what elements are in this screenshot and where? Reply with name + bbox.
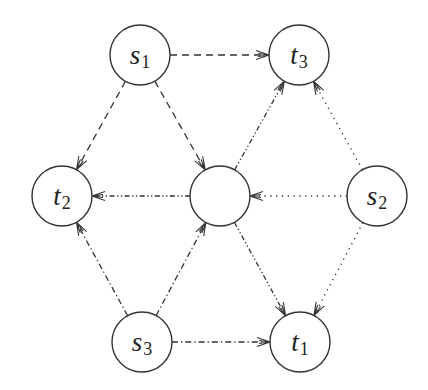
node-t1 <box>270 312 330 372</box>
edge-s1-to-m <box>155 81 204 168</box>
edge-s2-to-t3 <box>314 83 362 170</box>
arrowhead-icon <box>274 81 284 95</box>
node-s2 <box>347 166 407 226</box>
node-t2 <box>32 166 92 226</box>
arrowhead-icon <box>76 222 86 236</box>
node-t3 <box>269 25 329 85</box>
node-s1 <box>110 25 170 85</box>
arrowhead-icon <box>250 192 263 201</box>
node-m <box>190 166 250 226</box>
edge-s2-to-t1 <box>315 223 363 314</box>
arrowhead-icon <box>77 156 87 170</box>
edge-s3-to-m <box>156 224 205 315</box>
flow-diagram: s1 t3 t2 s2 s3 t1 <box>0 0 428 390</box>
arrowhead-icon <box>275 302 285 316</box>
edge-s3-to-t2 <box>77 224 127 316</box>
arrowhead-icon <box>195 156 205 170</box>
edge-m-to-t1 <box>234 222 284 314</box>
edge-s1-to-t2 <box>77 81 125 168</box>
arrowhead-icon <box>314 302 324 316</box>
edges-layer <box>0 0 428 390</box>
arrowhead-icon <box>196 222 206 236</box>
node-s3 <box>112 312 172 372</box>
edge-m-to-t3 <box>235 83 284 170</box>
arrowhead-icon <box>257 338 270 347</box>
arrowhead-icon <box>314 81 324 95</box>
